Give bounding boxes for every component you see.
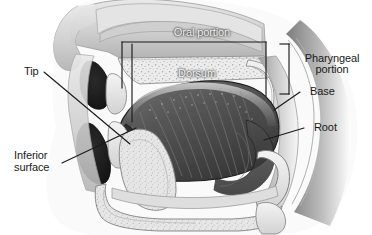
label-pharyngeal-portion-line2: portion [296, 64, 368, 76]
anatomical-figure: Oral portion Dorsum Pharyngeal portion B… [0, 0, 372, 235]
label-inferior-surface-line2: surface [14, 162, 49, 174]
label-oral-portion: Oral portion [160, 27, 244, 39]
label-base: Base [310, 86, 335, 98]
label-root: Root [314, 122, 337, 134]
label-dorsum: Dorsum [166, 68, 228, 80]
label-tip: Tip [24, 66, 39, 78]
label-inferior-surface-line1: Inferior [14, 150, 47, 162]
